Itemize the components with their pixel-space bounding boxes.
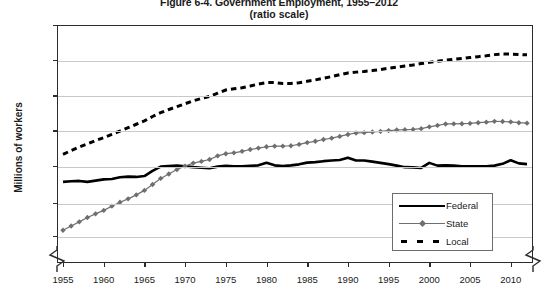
x-tick-label: 1955 [40,275,86,285]
series-line-local [63,54,527,154]
chart-title: Figure 6-4. Government Employment, 1955–… [0,0,558,8]
x-tick-label: 1985 [284,275,330,285]
x-tick-label: 2005 [447,275,493,285]
x-tick-label: 2000 [406,275,452,285]
x-tick-label: 1990 [325,275,371,285]
legend-item-local: Local [393,233,494,250]
chart-title-block: Figure 6-4. Government Employment, 1955–… [0,0,558,20]
x-tick-mark [144,262,145,267]
legend-label-local: Local [446,236,469,247]
gridline [58,96,532,97]
x-tick-mark [389,262,390,267]
legend-item-state: State [393,215,494,232]
figure-government-employment: Figure 6-4. Government Employment, 1955–… [0,0,558,305]
x-tick-label: 1970 [162,275,208,285]
series-line-federal [63,158,527,182]
legend-label-federal: Federal [446,200,478,211]
gridline [58,167,532,168]
x-tick-label: 1980 [244,275,290,285]
x-tick-mark [185,262,186,267]
x-tick-label: 1960 [81,275,127,285]
x-tick-label: 2010 [488,275,534,285]
legend-swatch-state [399,215,445,232]
x-tick-label: 1965 [121,275,167,285]
legend-label-state: State [446,218,468,229]
x-tick-mark [307,262,308,267]
legend-swatch-local [399,233,445,250]
x-tick-mark [470,262,471,267]
y-axis-break-right [524,246,544,272]
x-tick-label: 1995 [366,275,412,285]
legend-item-federal: Federal [393,197,494,214]
x-tick-mark [267,262,268,267]
x-tick-mark [104,262,105,267]
x-tick-mark [348,262,349,267]
x-tick-mark [226,262,227,267]
gridline [58,61,532,62]
y-axis-title: Millions of workers [13,78,24,218]
x-tick-mark [511,262,512,267]
y-axis-break-left [48,246,68,272]
x-tick-label: 1975 [203,275,249,285]
gridline [58,131,532,132]
chart-subtitle: (ratio scale) [0,8,558,20]
x-tick-mark [429,262,430,267]
chart-legend: Federal State Local [392,193,493,251]
legend-swatch-federal [399,197,445,214]
